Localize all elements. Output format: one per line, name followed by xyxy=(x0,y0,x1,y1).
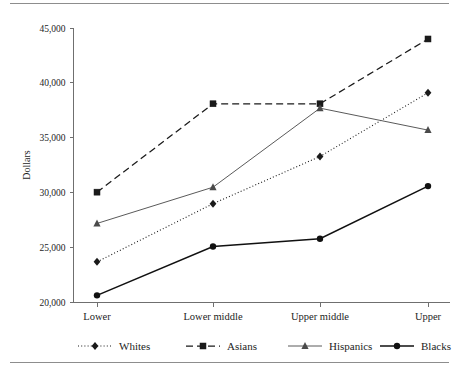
legend-item-asians[interactable]: Asians xyxy=(186,340,257,352)
data-point-marker xyxy=(317,152,324,160)
x-axis-category-labels: LowerLower middleUpper middleUpper xyxy=(83,311,441,322)
data-point-marker xyxy=(94,292,100,298)
data-point-marker xyxy=(425,36,431,42)
chart-figure: 20,00025,00030,00035,00040,00045,000 Low… xyxy=(0,0,459,372)
y-axis-tick-labels: 20,00025,00030,00035,00040,00045,000 xyxy=(39,24,65,309)
series-layer xyxy=(93,36,431,299)
y-tick-label: 20,000 xyxy=(39,298,65,308)
chart-legend: WhitesAsiansHispanicsBlacks xyxy=(78,340,451,352)
series-line xyxy=(97,186,428,295)
line-chart-plot: 20,00025,00030,00035,00040,00045,000 Low… xyxy=(0,0,459,372)
y-axis-title: Dollars xyxy=(21,150,32,180)
data-point-marker xyxy=(317,236,323,242)
legend-label: Hispanics xyxy=(329,340,372,352)
legend-label: Blacks xyxy=(421,340,451,352)
series-line xyxy=(97,39,428,192)
data-point-marker xyxy=(210,200,217,208)
data-point-marker xyxy=(210,243,216,249)
y-tick-label: 40,000 xyxy=(39,78,65,88)
x-axis-ticks xyxy=(97,303,428,307)
series-line xyxy=(97,93,428,262)
legend-item-blacks[interactable]: Blacks xyxy=(380,340,451,352)
y-tick-label: 30,000 xyxy=(39,188,65,198)
y-tick-label: 45,000 xyxy=(39,24,65,34)
data-point-marker xyxy=(425,89,432,97)
series-hispanics xyxy=(93,104,431,226)
data-point-marker xyxy=(94,189,100,195)
data-point-marker xyxy=(210,101,216,107)
legend-item-hispanics[interactable]: Hispanics xyxy=(288,340,372,352)
data-point-marker xyxy=(94,258,101,266)
legend-label: Asians xyxy=(227,340,257,352)
series-line xyxy=(97,108,428,223)
legend-marker-icon xyxy=(394,343,400,349)
y-axis-ticks xyxy=(70,28,74,303)
data-point-marker xyxy=(425,183,431,189)
x-category-label: Lower xyxy=(83,311,111,322)
x-category-label: Upper middle xyxy=(291,311,349,322)
x-category-label: Upper xyxy=(415,311,442,322)
legend-marker-icon xyxy=(92,342,99,350)
legend-item-whites[interactable]: Whites xyxy=(78,340,150,352)
y-tick-label: 35,000 xyxy=(39,133,65,143)
x-category-label: Lower middle xyxy=(183,311,243,322)
series-asians xyxy=(94,36,431,195)
data-point-marker xyxy=(209,183,216,190)
series-blacks xyxy=(94,183,431,299)
legend-label: Whites xyxy=(119,340,150,352)
series-whites xyxy=(94,89,432,266)
y-tick-label: 25,000 xyxy=(39,243,65,253)
legend-marker-icon xyxy=(200,343,206,349)
